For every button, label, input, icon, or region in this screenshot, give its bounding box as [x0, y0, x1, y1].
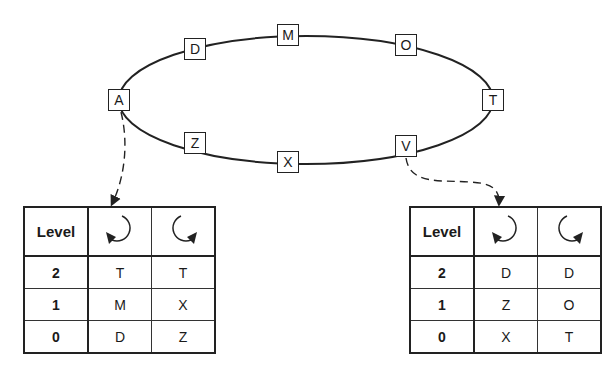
- ccw-cell: X: [474, 321, 538, 354]
- level-cell: 2: [410, 256, 474, 289]
- finger-table-a: Level 2 T T 1 M X 0 D Z: [23, 206, 216, 354]
- finger-table-v: Level 2 D D 1 Z O 0 X T: [409, 206, 602, 354]
- ccw-cell: T: [88, 256, 152, 289]
- cw-cell: T: [538, 321, 602, 354]
- ring-node-d: D: [184, 38, 206, 60]
- clockwise-arrow-icon: [538, 207, 602, 256]
- table-row: 2 D D: [410, 256, 601, 289]
- cw-cell: Z: [152, 321, 216, 354]
- ring-node-z: Z: [184, 132, 206, 154]
- level-header: Level: [24, 207, 88, 256]
- ring-node-x: X: [277, 151, 299, 173]
- cw-cell: X: [152, 289, 216, 321]
- level-header: Level: [410, 207, 474, 256]
- ring-node-a: A: [108, 89, 130, 111]
- level-cell: 0: [410, 321, 474, 354]
- ring-node-m: M: [277, 24, 299, 46]
- table-row: 2 T T: [24, 256, 215, 289]
- ccw-cell: D: [88, 321, 152, 354]
- level-cell: 1: [410, 289, 474, 321]
- ring-node-t: T: [482, 89, 504, 111]
- cw-cell: O: [538, 289, 602, 321]
- counterclockwise-arrow-icon: [88, 207, 152, 256]
- ring-node-o: O: [395, 34, 417, 56]
- table-row: 0 D Z: [24, 321, 215, 354]
- cw-cell: T: [152, 256, 216, 289]
- ccw-cell: M: [88, 289, 152, 321]
- ring-node-v: V: [395, 135, 417, 157]
- pointer-a-to-table: [112, 112, 125, 204]
- counterclockwise-arrow-icon: [474, 207, 538, 256]
- level-cell: 0: [24, 321, 88, 354]
- clockwise-arrow-icon: [152, 207, 216, 256]
- pointer-v-to-table: [406, 158, 499, 204]
- level-cell: 1: [24, 289, 88, 321]
- level-cell: 2: [24, 256, 88, 289]
- ring-ellipse: [119, 36, 493, 164]
- table-row: 1 M X: [24, 289, 215, 321]
- table-row: 1 Z O: [410, 289, 601, 321]
- ccw-cell: Z: [474, 289, 538, 321]
- table-row: 0 X T: [410, 321, 601, 354]
- cw-cell: D: [538, 256, 602, 289]
- ccw-cell: D: [474, 256, 538, 289]
